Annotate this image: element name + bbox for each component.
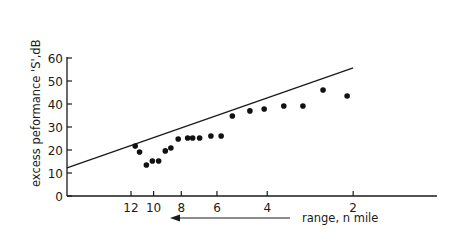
data-point	[150, 158, 156, 164]
y-tick-label: 30	[48, 121, 63, 135]
chart: 0102030405060 12108642 excess peformance…	[0, 0, 458, 247]
data-point	[163, 148, 169, 154]
data-point	[175, 136, 181, 142]
y-tick-label: 40	[48, 98, 63, 112]
data-point	[218, 133, 224, 139]
y-tick-label: 0	[55, 190, 63, 204]
predicted-line	[67, 68, 353, 168]
data-point	[281, 103, 287, 109]
data-point	[185, 135, 191, 141]
x-tick-label: 10	[146, 201, 161, 215]
data-point	[344, 93, 350, 99]
x-tick-label: 6	[213, 201, 221, 215]
data-point	[320, 87, 326, 93]
data-point	[144, 162, 150, 168]
arrow-left-icon	[170, 215, 180, 222]
range-arrow	[170, 215, 290, 222]
data-point	[230, 113, 236, 119]
x-axis-title: range, n mile	[302, 211, 378, 225]
data-point	[132, 143, 138, 149]
y-tick-label: 50	[48, 75, 63, 89]
y-tick-label: 60	[48, 52, 63, 66]
y-tick-label: 10	[48, 167, 63, 181]
y-ticks: 0102030405060	[48, 52, 72, 204]
x-tick-label: 12	[123, 201, 138, 215]
data-point	[261, 106, 267, 112]
data-point	[156, 158, 162, 164]
data-point	[168, 145, 174, 151]
data-point	[190, 135, 196, 141]
data-point	[208, 133, 214, 139]
data-point	[247, 108, 253, 114]
x-tick-label: 4	[263, 201, 271, 215]
data-point	[197, 135, 203, 141]
axes	[67, 57, 437, 196]
predicted-line-path	[67, 68, 353, 168]
x-tick-label: 8	[177, 201, 185, 215]
data-points	[132, 87, 350, 168]
y-axis-title: excess peformance 'S',dB	[29, 39, 43, 187]
data-point	[300, 103, 306, 109]
data-point	[137, 149, 143, 155]
y-tick-label: 20	[48, 144, 63, 158]
